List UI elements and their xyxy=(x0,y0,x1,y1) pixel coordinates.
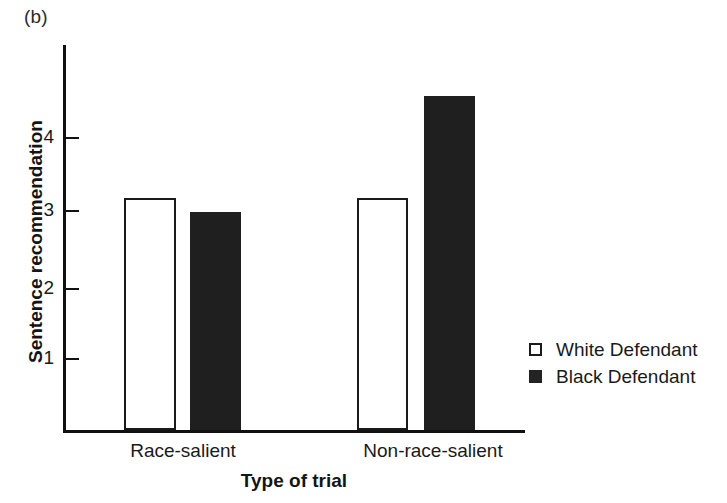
y-axis-title: Sentence recommendation xyxy=(25,123,47,363)
legend-label-white-defendant: White Defendant xyxy=(556,339,698,361)
bar-non-race-salient-black xyxy=(424,96,475,430)
y-tick-label-4: 4 xyxy=(30,126,54,148)
x-category-label-non-race-salient: Non-race-salient xyxy=(318,440,548,462)
x-axis-line xyxy=(63,430,525,433)
legend-item-white-defendant: White Defendant xyxy=(529,336,698,363)
y-tick-label-2: 2 xyxy=(30,277,54,299)
legend-swatch-white-square-icon xyxy=(529,343,542,356)
y-tick-mark-4 xyxy=(66,137,79,139)
legend: White Defendant Black Defendant xyxy=(529,336,698,390)
y-tick-mark-2 xyxy=(66,288,79,290)
legend-label-black-defendant: Black Defendant xyxy=(556,366,695,388)
panel-label: (b) xyxy=(24,6,48,28)
legend-swatch-black-square-icon xyxy=(529,370,542,383)
x-category-label-race-salient: Race-salient xyxy=(98,440,268,462)
bar-race-salient-black xyxy=(190,212,241,430)
y-tick-label-3: 3 xyxy=(30,199,54,221)
y-tick-mark-3 xyxy=(66,210,79,212)
x-axis-title: Type of trial xyxy=(63,470,525,492)
y-tick-label-1: 1 xyxy=(30,347,54,369)
figure-panel-b: (b) Sentence recommendation 4 3 2 1 Race… xyxy=(0,0,727,503)
y-tick-mark-1 xyxy=(66,358,79,360)
y-axis-line xyxy=(63,45,66,432)
legend-item-black-defendant: Black Defendant xyxy=(529,363,698,390)
bar-non-race-salient-white xyxy=(357,198,408,430)
bar-race-salient-white xyxy=(124,198,176,430)
